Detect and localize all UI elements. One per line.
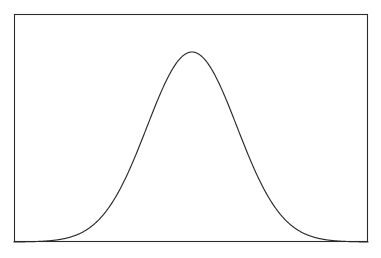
figure-canvas: [0, 0, 381, 258]
bell-curve-figure: [0, 0, 381, 258]
plot-area-frame: [15, 15, 368, 242]
